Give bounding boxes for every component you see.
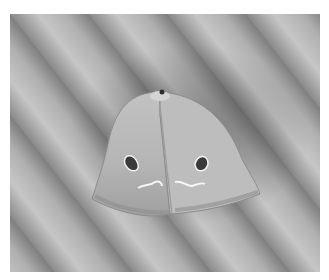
photo-canvas bbox=[10, 14, 320, 272]
moth-eye bbox=[160, 90, 165, 95]
moth-photograph bbox=[10, 14, 320, 272]
right-eyespot bbox=[195, 157, 208, 171]
